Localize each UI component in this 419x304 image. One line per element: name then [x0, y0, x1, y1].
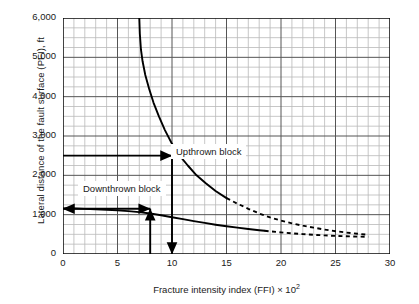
y-tick-label: 0	[10, 248, 56, 258]
x-axis-title: Fracture intensity index (FFI) × 102	[63, 283, 390, 295]
y-tick-label: 6,000	[10, 12, 56, 22]
x-tick-label: 15	[207, 258, 247, 268]
x-axis-title-text: Fracture intensity index (FFI) × 10	[153, 284, 296, 295]
downthrown-block-label: Downthrown block	[78, 181, 166, 196]
chart-canvas	[63, 18, 390, 254]
figure-chart: Lateral distance of the fault surface (P…	[0, 0, 419, 304]
x-tick-label: 0	[43, 258, 83, 268]
x-axis-title-exponent: 2	[296, 283, 300, 290]
y-tick-label: 3,000	[10, 130, 56, 140]
upthrown-block-label: Upthrown block	[171, 144, 246, 159]
y-tick-label: 4,000	[10, 91, 56, 101]
x-tick-label: 5	[98, 258, 138, 268]
y-tick-label: 2,000	[10, 169, 56, 179]
y-tick-label: 1,000	[10, 209, 56, 219]
x-tick-label: 25	[316, 258, 356, 268]
y-tick-label: 5,000	[10, 51, 56, 61]
x-tick-label: 10	[152, 258, 192, 268]
x-tick-label: 20	[261, 258, 301, 268]
x-tick-label: 30	[370, 258, 410, 268]
plot-area	[63, 18, 390, 254]
